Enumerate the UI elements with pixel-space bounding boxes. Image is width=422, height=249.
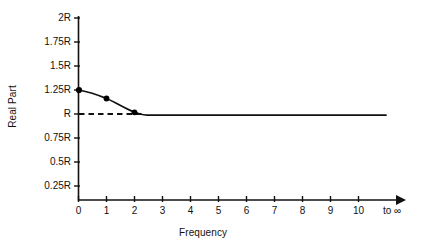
y-tick-label-1.25R: 1.25R bbox=[21, 84, 71, 95]
x-tick-label-10: 10 bbox=[346, 205, 371, 216]
y-tick-label-1.75R: 1.75R bbox=[21, 36, 71, 47]
y-tick-label-2R: 2R bbox=[31, 12, 71, 23]
y-tick-label-0.5R: 0.5R bbox=[24, 156, 71, 167]
y-tick-label-0.75R: 0.75R bbox=[21, 132, 71, 143]
x-tick-label-1: 1 bbox=[94, 205, 119, 216]
data-curve-real-part bbox=[79, 90, 386, 115]
y-tick-label-1.5R: 1.5R bbox=[24, 60, 71, 71]
chart-figure: 2R 1.75R 1.5R 1.25R R 0.75R 0.5R 0.25R 0… bbox=[0, 0, 422, 249]
x-tick-label-to-infinity: to ∞ bbox=[373, 205, 411, 216]
y-tick-label-R: R bbox=[36, 108, 71, 119]
x-tick-label-2: 2 bbox=[122, 205, 147, 216]
x-tick-label-8: 8 bbox=[290, 205, 315, 216]
x-axis-arrow-icon bbox=[396, 195, 406, 205]
y-axis-title: Real Part bbox=[7, 77, 18, 137]
x-axis-title: Frequency bbox=[179, 227, 227, 238]
x-tick-label-5: 5 bbox=[206, 205, 231, 216]
x-tick-label-0: 0 bbox=[66, 205, 91, 216]
x-tick-label-6: 6 bbox=[234, 205, 259, 216]
data-point-marker bbox=[104, 96, 110, 102]
data-point-marker bbox=[76, 87, 82, 93]
data-point-marker bbox=[132, 109, 138, 115]
x-tick-label-3: 3 bbox=[150, 205, 175, 216]
x-tick-label-4: 4 bbox=[178, 205, 203, 216]
x-tick-label-7: 7 bbox=[262, 205, 287, 216]
x-tick-label-9: 9 bbox=[318, 205, 343, 216]
x-axis-ticks bbox=[79, 196, 359, 202]
y-tick-label-0.25R: 0.25R bbox=[21, 180, 71, 191]
